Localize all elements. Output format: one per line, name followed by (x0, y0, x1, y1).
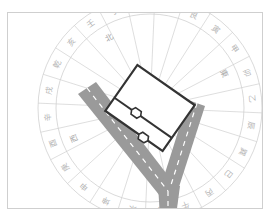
mountain-label: 辰 (246, 121, 256, 130)
mountain-label: 丑 (163, 2, 172, 12)
mountain-label: 乙 (247, 95, 257, 104)
mountain-label: 庚 (59, 161, 72, 173)
mountain-label: 甲 (228, 43, 240, 55)
mountain-label: 酉 (48, 138, 59, 149)
mountain-label: 亥 (65, 36, 78, 49)
mountain-label: 坤 (101, 195, 112, 207)
mountain-label: 壬 (85, 17, 97, 30)
mountain-label: 辛 (42, 113, 53, 122)
mountain-label: 申 (78, 181, 91, 194)
mountain-label: 午 (180, 199, 191, 211)
mountain-label: 巳 (223, 168, 235, 180)
mountain-label: 艮 (188, 9, 199, 21)
mountain-label: 戌 (43, 85, 54, 95)
feng-shui-diagram: 子癸丑艮寅甲卯乙辰巽巳丙午丁未坤申庚酉辛戌乾亥壬北東西 (0, 0, 272, 216)
mountain-label: 癸 (137, 0, 146, 11)
mountain-label: 子 (110, 6, 121, 17)
mountain-label: 寅 (210, 23, 223, 36)
mountain-label: 卯 (241, 68, 252, 79)
mountain-label: 未 (127, 204, 137, 215)
direction-label-west: 西 (69, 133, 80, 144)
mountain-label: 巽 (237, 146, 249, 157)
direction-label-north: 北 (104, 32, 115, 44)
mountain-label: 丙 (203, 186, 215, 198)
direction-label-east: 東 (218, 68, 230, 79)
mountain-label: 乾 (50, 59, 62, 70)
